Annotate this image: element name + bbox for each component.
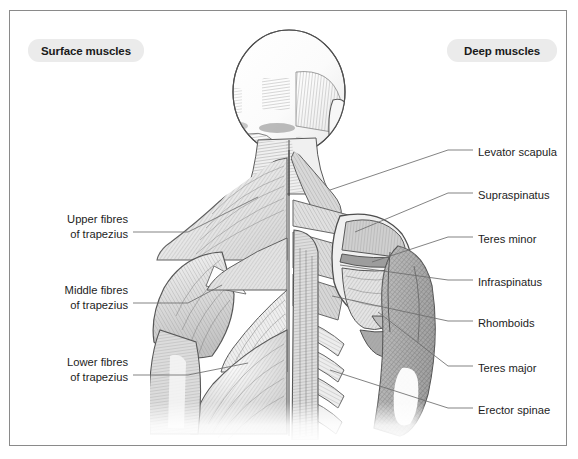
label-line-1: Rhomboids (478, 317, 535, 329)
header-deep-muscles: Deep muscles (447, 39, 557, 62)
label-line-1: Erector spinae (478, 404, 550, 416)
label-upper-fibres-trapezius: Upper fibresof trapezius (0, 212, 128, 241)
label-supraspinatus: Supraspinatus (478, 188, 550, 203)
label-levator-scapula: Levator scapula (478, 145, 557, 160)
label-teres-major: Teres major (478, 361, 536, 376)
label-line-1: Middle fibres (65, 284, 128, 296)
label-erector-spinae: Erector spinae (478, 403, 550, 418)
label-line-1: Upper fibres (67, 213, 128, 225)
label-infraspinatus: Infraspinatus (478, 275, 542, 290)
label-rhomboids: Rhomboids (478, 316, 535, 331)
label-line-1: Lower fibres (67, 356, 128, 368)
header-surface-muscles: Surface muscles (28, 39, 144, 62)
label-lower-fibres-trapezius: Lower fibresof trapezius (0, 355, 128, 384)
label-line-1: Levator scapula (478, 146, 557, 158)
label-line-1: Teres minor (478, 233, 536, 245)
label-middle-fibres-trapezius: Middle fibresof trapezius (0, 283, 128, 312)
label-line-2: of trapezius (0, 298, 128, 313)
label-line-2: of trapezius (0, 370, 128, 385)
anatomy-figure-panel: Surface muscles Deep muscles Upper fibre… (0, 0, 578, 459)
label-line-1: Infraspinatus (478, 276, 542, 288)
label-line-1: Supraspinatus (478, 189, 550, 201)
label-line-2: of trapezius (0, 227, 128, 242)
label-teres-minor: Teres minor (478, 232, 536, 247)
label-line-1: Teres major (478, 362, 536, 374)
